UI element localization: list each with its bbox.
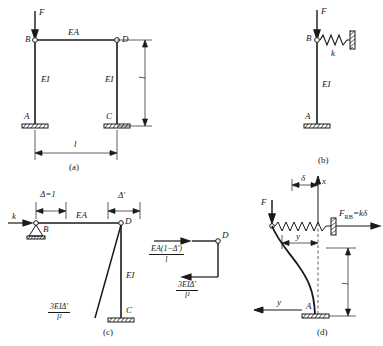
- load-arrow-f: [269, 200, 275, 223]
- label-node-b-b: B: [306, 34, 312, 43]
- hinge-d: [216, 239, 221, 244]
- label-node-c-a: C: [106, 112, 112, 121]
- spring-wall-support-d: [331, 218, 336, 235]
- label-node-b-c: B: [43, 225, 49, 234]
- panel-d-buckled-shape: δ x F FRB=kδ y y A l (d): [240, 173, 383, 346]
- label-force-f-a: F: [39, 8, 45, 17]
- label-node-d-fbd: D: [222, 231, 229, 240]
- panel-c-fbd-drawing: [148, 225, 248, 325]
- caption-d: (d): [317, 328, 328, 337]
- label-column-ei-b: EI: [322, 80, 331, 89]
- label-delta-prime-c: Δ′: [118, 191, 125, 200]
- label-node-c-c: C: [126, 306, 132, 315]
- unit-displacement-dimension: [36, 202, 66, 219]
- panel-c-node-d-free-body: D EA(1−Δ′) l 3EIΔ′ l³: [148, 225, 248, 325]
- label-node-a-a: A: [24, 112, 30, 121]
- label-delta-d: δ: [301, 174, 305, 183]
- caption-c: (c): [103, 328, 113, 337]
- label-node-b-a: B: [25, 35, 31, 44]
- label-unit-displacement: Δ=1: [40, 190, 56, 199]
- label-spring-k: k: [331, 49, 335, 58]
- fixed-support-a: [304, 124, 330, 128]
- fixed-support-a: [22, 124, 48, 128]
- label-column-ei-c: EI: [126, 271, 135, 280]
- label-y-outer: y: [277, 298, 281, 307]
- label-axis-x: x: [322, 177, 326, 186]
- label-right-column-ei: EI: [105, 75, 114, 84]
- caption-b: (b): [318, 156, 329, 165]
- spring-wall-support: [350, 31, 355, 49]
- label-y-inner: y: [296, 232, 300, 241]
- label-span-l: l: [74, 140, 77, 149]
- label-force-f-d: F: [261, 198, 267, 207]
- formula-denominator: l²: [48, 313, 70, 322]
- y-offset-dimension: [282, 235, 318, 249]
- label-node-a-d: A: [306, 302, 312, 311]
- formula-shear-force: 3EIΔ′ l³: [176, 281, 198, 301]
- label-spring-force-k: k: [12, 212, 16, 221]
- formula-denominator: l: [149, 255, 184, 264]
- panel-a-portal-frame: F B D A C EA EI EI l l (a): [0, 0, 192, 173]
- delta-prime-dimension: [108, 202, 140, 219]
- reaction-subscript: RB: [345, 213, 353, 220]
- load-arrow-f: [314, 10, 320, 39]
- spring-k: [320, 35, 350, 45]
- height-dimension-line: [117, 40, 152, 126]
- formula-denominator: l³: [176, 291, 198, 300]
- label-beam-ea: EA: [68, 28, 79, 37]
- fixed-support-a-d: [302, 314, 329, 318]
- panel-a-drawing: [0, 0, 192, 173]
- fixed-support-c: [108, 318, 134, 322]
- label-node-d-c: D: [125, 217, 132, 226]
- reaction-equals-value: =kδ: [353, 208, 367, 218]
- panel-b-drawing: [192, 0, 383, 173]
- hinge-d: [119, 221, 124, 226]
- label-node-d-a: D: [122, 35, 129, 44]
- label-height-l-d: l: [341, 282, 350, 285]
- panel-b-equivalent-column: F B k EI A (b): [192, 0, 383, 173]
- label-reaction-frb: FRB=kδ: [339, 209, 367, 220]
- axis-y-arrow: [254, 307, 302, 313]
- label-height-l: l: [138, 76, 147, 79]
- caption-a: (a): [69, 163, 79, 172]
- formula-axial-force: EA(1−Δ′) l: [149, 245, 184, 265]
- formula-numerator: 3EIΔ′: [48, 303, 70, 313]
- label-left-column-ei: EI: [41, 75, 50, 84]
- label-node-a-b: A: [305, 112, 311, 121]
- spring-k-d: [275, 222, 331, 231]
- label-force-f-b: F: [321, 7, 327, 16]
- axis-x-arrow: [316, 176, 321, 223]
- label-beam-ea-c: EA: [76, 211, 87, 220]
- hinge-b: [315, 38, 320, 43]
- formula-numerator: 3EIΔ′: [176, 281, 198, 291]
- deflected-column-shape: [95, 225, 121, 318]
- load-arrow-f: [32, 11, 38, 39]
- formula-numerator: EA(1−Δ′): [149, 245, 184, 255]
- reaction-force-arrow: [336, 223, 380, 229]
- hinge-b: [33, 38, 38, 43]
- formula-shear-stiffness-c: 3EIΔ′ l²: [48, 303, 70, 323]
